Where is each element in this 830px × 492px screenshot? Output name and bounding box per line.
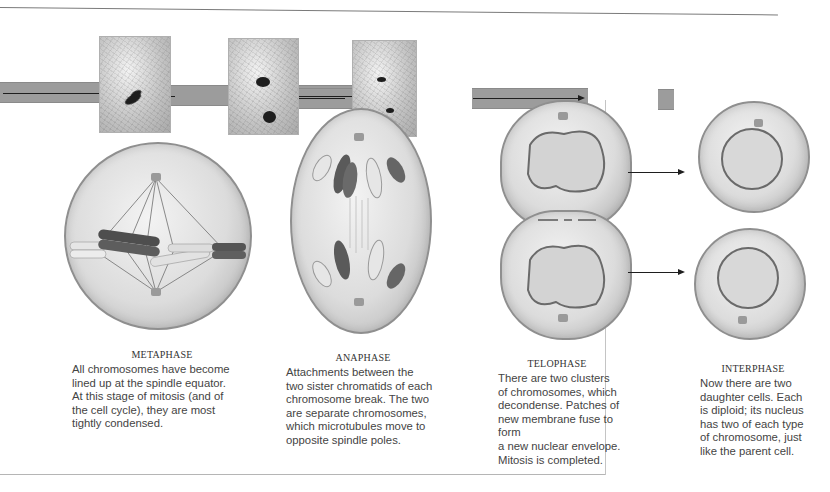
metaphase-spindle	[64, 142, 248, 326]
caption-line: like the parent cell.	[700, 445, 820, 459]
caption-body: There are two clusters of chromosomes, w…	[498, 372, 638, 467]
caption-line: two sister chromatids of each	[286, 380, 466, 394]
caption-title: ANAPHASE	[260, 352, 466, 363]
caption-line: the cell cycle), they are most	[72, 404, 252, 418]
caption-metaphase: METAPHASE All chromosomes have become li…	[72, 349, 252, 431]
caption-title: TELOPHASE	[476, 358, 638, 369]
caption-telophase: TELOPHASE There are two clusters of chro…	[498, 358, 638, 467]
caption-line: daughter cells. Each	[700, 391, 820, 405]
caption-line: are separate chromosomes,	[286, 407, 466, 421]
caption-line: All chromosomes have become	[72, 363, 252, 377]
caption-title: METAPHASE	[72, 349, 252, 360]
caption-line: of chromosomes, which	[498, 386, 638, 400]
caption-line: is diploid; its nucleus	[700, 404, 820, 418]
caption-line: Now there are two	[700, 377, 820, 391]
caption-interphase: INTERPHASE Now there are two daughter ce…	[700, 363, 820, 459]
caption-line: decondense. Patches of	[498, 399, 638, 413]
telophase-nuclei	[500, 100, 632, 336]
caption-line: which microtubules move to	[286, 420, 466, 434]
caption-line: Attachments between the	[286, 366, 466, 380]
panel-bottom-border	[0, 474, 605, 475]
timeline-band-5	[658, 89, 674, 110]
metaphase-micrograph	[99, 36, 171, 133]
caption-line: a new nuclear envelope.	[498, 440, 638, 454]
caption-body: Attachments between the two sister chrom…	[286, 366, 466, 448]
caption-line: There are two clusters	[498, 372, 638, 386]
caption-line: opposite spindle poles.	[286, 434, 466, 448]
caption-line: of chromosome, just	[700, 431, 820, 445]
caption-line: has two of each type	[700, 418, 820, 432]
daughter-nucleus-bottom	[694, 228, 802, 336]
caption-body: Now there are two daughter cells. Each i…	[700, 377, 820, 459]
anaphase-chromosomes	[290, 108, 428, 330]
caption-line: tightly condensed.	[72, 417, 252, 431]
caption-title: INTERPHASE	[686, 363, 820, 374]
caption-body: All chromosomes have become lined up at …	[72, 363, 252, 431]
caption-line: At this stage of mitosis (and of	[72, 390, 252, 404]
anaphase-micrograph	[228, 38, 299, 135]
caption-line: lined up at the spindle equator.	[72, 377, 252, 391]
caption-line: chromosome break. The two	[286, 393, 466, 407]
daughter-nucleus-top	[698, 101, 806, 209]
top-rule	[0, 7, 778, 15]
caption-line: Mitosis is completed.	[498, 454, 638, 468]
caption-anaphase: ANAPHASE Attachments between the two sis…	[286, 352, 466, 448]
caption-line: new membrane fuse to form	[498, 413, 638, 440]
